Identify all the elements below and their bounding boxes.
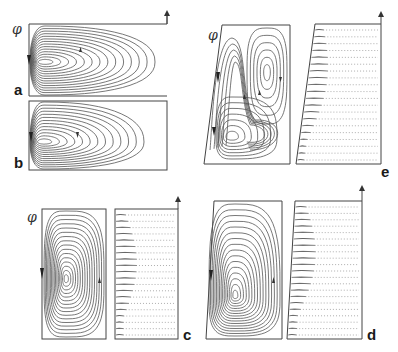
velocity-vectors-c xyxy=(116,215,175,336)
flow-direction-arrow-icon xyxy=(40,268,44,279)
velocity-vectors-e xyxy=(298,30,378,161)
flow-direction-arrow-icon xyxy=(98,277,101,283)
velocity-vectors-d xyxy=(288,207,359,336)
figure-canvas: φ a b φ e φ xyxy=(0,0,398,352)
panel-a: φ a xyxy=(12,13,167,98)
panel-label-d: d xyxy=(367,326,376,343)
panel-e-stream-frame xyxy=(204,25,290,164)
flow-direction-arrow-icon xyxy=(258,90,261,95)
streamlines-a xyxy=(30,26,155,95)
streamlines-b xyxy=(30,102,144,169)
panel-d: d xyxy=(206,188,376,343)
panel-e: φ e xyxy=(204,14,389,180)
panel-d-vector-frame xyxy=(287,201,362,339)
streamlines-c xyxy=(44,211,104,337)
panel-label-c: c xyxy=(183,326,191,343)
panel-c-vector-frame xyxy=(115,209,178,339)
psi-label-e: φ xyxy=(208,27,218,43)
panel-label-a: a xyxy=(14,81,23,98)
psi-label-a: φ xyxy=(12,21,22,37)
panel-label-e: e xyxy=(381,163,389,180)
streamlines-e xyxy=(210,28,287,159)
flow-direction-arrow-icon xyxy=(279,77,282,82)
panel-e-vector-frame xyxy=(296,24,381,164)
panel-b: b xyxy=(14,101,167,171)
streamlines-d xyxy=(209,204,280,336)
panel-label-b: b xyxy=(14,154,23,171)
panel-c: φ c xyxy=(27,199,191,343)
psi-label-c: φ xyxy=(27,209,37,225)
